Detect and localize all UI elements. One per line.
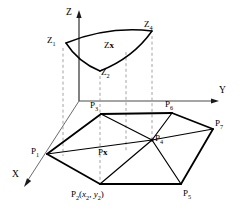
zx-bold-suffix: x [110,40,115,50]
p1-subscript: 1 [36,151,39,158]
x-axis-arrowhead [24,178,31,187]
polygon-label-px: Px [98,148,108,157]
surface-label-zx: Zx [104,41,114,50]
projector-lines-group [63,36,152,183]
edge-p3-p6 [101,113,172,114]
edge-p3-p4 [101,114,152,140]
z2-subscript: 2 [107,72,110,79]
polygon-outline [47,113,213,184]
polygon-label-p7: P7 [215,119,223,130]
surface-edge-z1-z2 [66,43,100,71]
edge-p6-p7 [172,113,213,129]
p6-subscript: 6 [170,104,173,111]
surface-label-z4: Z4 [144,20,153,31]
z-axis-label: Z [66,8,72,18]
p4-subscript: 4 [160,138,163,145]
p3-subscript: 3 [95,105,98,112]
y-axis-arrowhead [211,98,219,103]
y-axis-label: Y [219,86,226,96]
polygon-label-p6: P6 [165,100,173,111]
polygon-label-p1: P1 [31,147,39,158]
z4-subscript: 4 [150,24,153,31]
vertex-node-p4 [150,138,153,141]
px-bold-suffix: x [103,147,108,157]
edge-p4-p5 [152,140,181,184]
surface-label-z1: Z1 [47,36,56,47]
z1-subscript: 1 [53,40,56,47]
diagram-svg [0,0,241,212]
surface-label-z2: Z2 [101,68,110,79]
edge-p7-p5 [181,129,213,184]
polygon-label-p3: P3 [90,101,98,112]
x-axis-label: X [12,170,19,180]
polygon-label-p5: P5 [183,189,191,200]
figure-canvas: Z Y X Z1 Z2 Z4 Zx P1 P2(x2, y2) P3 P4 P5… [0,0,241,212]
polygon-label-p2: P2(x2, y2) [71,190,104,201]
polygon-label-p4: P4 [155,134,163,145]
z-axis-arrowhead [76,10,81,18]
p7-subscript: 7 [220,123,223,130]
polygon-mesh-group [47,113,213,184]
edge-p2-p1 [47,154,100,184]
p5-subscript: 5 [188,193,191,200]
